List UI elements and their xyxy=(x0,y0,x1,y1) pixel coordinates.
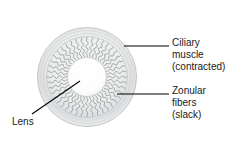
figure-root: Ciliary muscle (contracted) Zonular fibe… xyxy=(0,0,239,141)
label-zonular-line-1: Zonular xyxy=(172,85,206,97)
label-ciliary-line-2: muscle xyxy=(172,49,225,61)
label-ciliary-line-3: (contracted) xyxy=(172,61,225,73)
label-zonular-line-2: fibers xyxy=(172,97,206,109)
label-lens-line-1: Lens xyxy=(12,116,34,128)
label-zonular-line-3: (slack) xyxy=(172,109,206,121)
label-ciliary-muscle: Ciliary muscle (contracted) xyxy=(172,37,225,73)
label-lens: Lens xyxy=(12,116,34,128)
label-ciliary-line-1: Ciliary xyxy=(172,37,225,49)
label-zonular-fibers: Zonular fibers (slack) xyxy=(172,85,206,121)
lens-body xyxy=(68,58,107,97)
